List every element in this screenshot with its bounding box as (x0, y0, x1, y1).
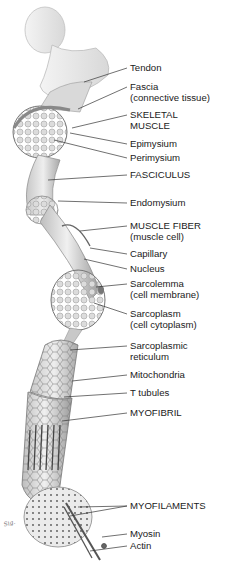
label-text: Fascia (130, 82, 210, 93)
label-fascia: Fascia(connective tissue) (130, 82, 210, 103)
label-subtext: (cell cytoplasm) (130, 320, 197, 331)
label-text: MUSCLE FIBER (130, 221, 201, 232)
leader-line-perimysium (54, 140, 127, 158)
label-text: MYOFIBRIL (130, 408, 182, 419)
label-fasciculus: FASCICULUS (130, 170, 190, 181)
label-text: Actin (130, 541, 151, 552)
myofibril-illustration (22, 340, 92, 547)
label-subtext: (cell membrane) (130, 290, 199, 301)
leader-line-capillary (90, 248, 127, 254)
label-epimysium: Epimysium (130, 139, 177, 150)
label-myofibril: MYOFIBRIL (130, 408, 182, 419)
label-muscle-fiber: MUSCLE FIBER(muscle cell) (130, 221, 201, 242)
label-perimysium: Perimysium (130, 153, 180, 164)
label-text: Myosin (130, 529, 160, 540)
label-text: T tubules (130, 388, 169, 399)
label-nucleus: Nucleus (130, 264, 165, 275)
label-subtext: (muscle cell) (130, 232, 201, 243)
label-myosin: Myosin (130, 529, 160, 540)
label-actin: Actin (130, 541, 151, 552)
label-text: Sarcolemma (130, 279, 199, 290)
muscle-structure-diagram: Sig. TendonFascia(connective tissue)SKEL… (0, 0, 225, 581)
leader-line-actin (90, 546, 127, 551)
leader-line-epimysium (70, 133, 127, 144)
label-text: Mitochondria (130, 370, 185, 381)
skeletal-muscle-illustration (13, 106, 70, 158)
leader-line-t-tubules (64, 393, 127, 397)
label-text: Nucleus (130, 264, 165, 275)
label-skeletal-muscle: SKELETALMUSCLE (130, 110, 178, 131)
label-tendon: Tendon (130, 63, 161, 74)
leader-line-sarcoplasmic-reticulum (70, 346, 127, 350)
label-text: Tendon (130, 63, 161, 74)
label-sarcolemma: Sarcolemma(cell membrane) (130, 279, 199, 300)
label-text: SKELETAL (130, 110, 178, 121)
leader-line-endomysium (58, 201, 127, 203)
label-subtext: reticulum (130, 352, 188, 363)
bone-illustration (25, 7, 109, 96)
leader-line-skeletal-muscle (72, 115, 127, 128)
label-text: Sarcoplasm (130, 309, 197, 320)
label-text: Epimysium (130, 139, 177, 150)
label-sarcoplasmic-reticulum: Sarcoplasmicreticulum (130, 341, 188, 362)
artist-signature: Sig. (3, 518, 17, 529)
label-endomysium: Endomysium (130, 198, 185, 209)
label-sarcoplasm: Sarcoplasm(cell cytoplasm) (130, 309, 197, 330)
label-text: Perimysium (130, 153, 180, 164)
label-mitochondria: Mitochondria (130, 370, 185, 381)
label-subtext: (connective tissue) (130, 93, 210, 104)
label-myofilaments: MYOFILAMENTS (130, 501, 206, 512)
label-text: MYOFILAMENTS (130, 501, 206, 512)
sarcoplasm-illustration (51, 270, 105, 330)
leader-line-myosin (102, 534, 127, 537)
label-capillary: Capillary (130, 249, 167, 260)
label-subtext: MUSCLE (130, 121, 178, 132)
label-text: Capillary (130, 249, 167, 260)
leader-line-muscle-fiber (80, 226, 127, 231)
label-text: Endomysium (130, 198, 185, 209)
leader-line-myofibril (62, 413, 127, 421)
label-text: FASCICULUS (130, 170, 190, 181)
label-t-tubules: T tubules (130, 388, 169, 399)
leader-line-mitochondria (72, 375, 127, 381)
label-text: Sarcoplasmic (130, 341, 188, 352)
leader-line-fasciculus (48, 175, 127, 180)
